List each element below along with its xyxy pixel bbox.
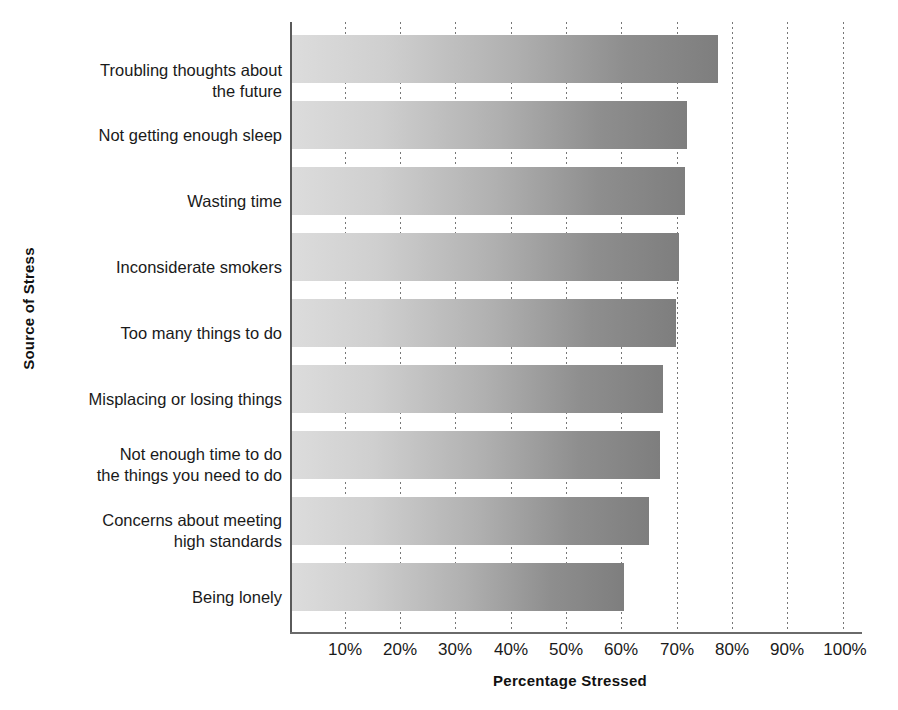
x-tick-label: 100% — [810, 640, 880, 660]
bar — [292, 431, 660, 479]
category-label: Too many things to do — [30, 323, 282, 344]
x-axis-title: Percentage Stressed — [290, 672, 850, 689]
x-axis-tick-labels: 10% 20% 30% 40% 50% 60% 70% 80% 90% 100% — [290, 640, 890, 666]
bar — [292, 101, 687, 149]
bar — [292, 365, 663, 413]
bar-chart: Source of Stress Troubling thoughts abou… — [0, 0, 898, 710]
bar — [292, 35, 718, 83]
category-label: Inconsiderate smokers — [30, 257, 282, 278]
category-label: Wasting time — [30, 191, 282, 212]
category-label: Concerns about meeting high standards — [30, 510, 282, 552]
category-label: Misplacing or losing things — [30, 389, 282, 410]
bar — [292, 299, 676, 347]
category-label: Not enough time to do the things you nee… — [30, 444, 282, 486]
bar-series — [292, 22, 846, 632]
bar — [292, 233, 679, 281]
category-label: Being lonely — [30, 587, 282, 608]
bar — [292, 167, 685, 215]
x-axis-line — [290, 632, 862, 634]
bar — [292, 497, 649, 545]
bar — [292, 563, 624, 611]
category-label: Not getting enough sleep — [30, 125, 282, 146]
category-label-list: Troubling thoughts about the future Not … — [30, 22, 282, 632]
category-label: Troubling thoughts about the future — [30, 60, 282, 102]
plot-area — [290, 22, 846, 632]
